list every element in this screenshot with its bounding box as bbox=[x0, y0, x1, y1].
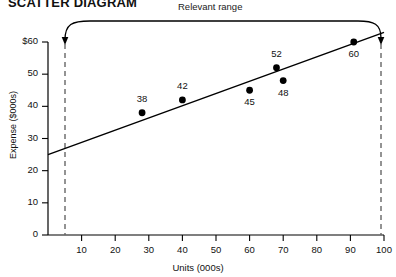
bracket-arrow-right bbox=[378, 37, 385, 45]
relevant-range-bounds bbox=[65, 44, 381, 235]
data-point-label-38: 38 bbox=[131, 93, 153, 104]
axes-group bbox=[48, 42, 384, 235]
y-tick-marks bbox=[42, 42, 48, 235]
data-point-label-52: 52 bbox=[265, 48, 287, 59]
data-point-45 bbox=[246, 87, 253, 94]
data-point-42 bbox=[179, 97, 186, 104]
bracket-curve bbox=[65, 21, 381, 40]
y-tick-label-50: 50 bbox=[4, 67, 38, 78]
trend-line-group bbox=[48, 32, 384, 154]
data-point-52 bbox=[273, 64, 280, 71]
x-tick-label-30: 30 bbox=[136, 244, 162, 255]
x-tick-label-50: 50 bbox=[203, 244, 229, 255]
relevant-range-bracket bbox=[62, 21, 385, 45]
data-point-48 bbox=[280, 77, 287, 84]
data-point-label-48: 48 bbox=[272, 87, 294, 98]
scatter-diagram-figure: SCATTER DIAGRAM Relevant range Expense (… bbox=[0, 0, 396, 277]
x-tick-label-90: 90 bbox=[337, 244, 363, 255]
data-point-label-45: 45 bbox=[239, 96, 261, 107]
x-tick-label-20: 20 bbox=[102, 244, 128, 255]
x-tick-label-80: 80 bbox=[304, 244, 330, 255]
data-point-label-42: 42 bbox=[171, 80, 193, 91]
y-tick-label-60: $60 bbox=[4, 35, 38, 46]
x-tick-marks bbox=[82, 235, 384, 241]
y-tick-label-20: 20 bbox=[4, 164, 38, 175]
x-tick-label-60: 60 bbox=[237, 244, 263, 255]
y-tick-label-10: 10 bbox=[4, 196, 38, 207]
bracket-arrow-left bbox=[62, 37, 69, 45]
data-point-label-60: 60 bbox=[343, 48, 365, 59]
x-tick-label-70: 70 bbox=[270, 244, 296, 255]
x-tick-label-100: 100 bbox=[371, 244, 396, 255]
data-point-38 bbox=[139, 109, 146, 116]
plot-canvas bbox=[0, 0, 396, 277]
data-point-60 bbox=[350, 39, 357, 46]
trend-line bbox=[48, 32, 384, 154]
x-tick-label-10: 10 bbox=[69, 244, 95, 255]
y-tick-label-40: 40 bbox=[4, 99, 38, 110]
x-tick-label-40: 40 bbox=[169, 244, 195, 255]
y-tick-label-30: 30 bbox=[4, 132, 38, 143]
y-tick-label-0: 0 bbox=[4, 228, 38, 239]
